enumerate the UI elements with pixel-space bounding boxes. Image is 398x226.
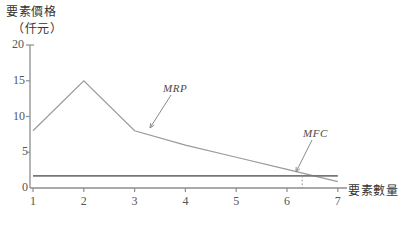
mrp-arrow [150,95,171,128]
mrp-line [33,81,338,182]
mfc-arrow [296,140,312,172]
